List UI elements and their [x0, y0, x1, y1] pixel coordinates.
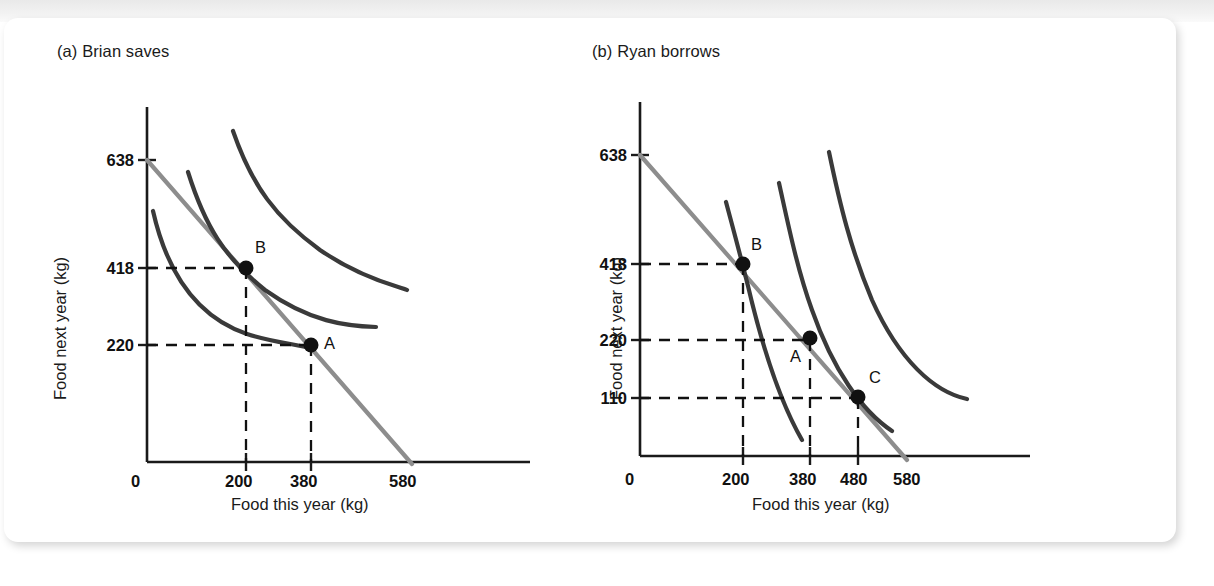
figure-container: (a) Brian saves Food this year (kg) Food…	[0, 0, 1214, 586]
panel-b-budget-line	[640, 155, 907, 460]
panel-b-plot	[0, 0, 1214, 586]
panel-b-point-B	[736, 257, 751, 272]
panel-b-point-A	[803, 331, 818, 346]
panel-b-indifference-curve-3	[829, 152, 967, 399]
panel-b-point-C	[851, 390, 866, 405]
